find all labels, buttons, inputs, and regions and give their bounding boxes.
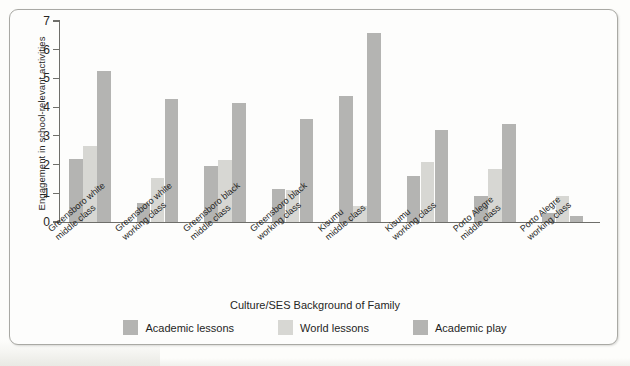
y-axis-tick xyxy=(53,107,60,108)
y-axis-tick-label: 2 xyxy=(34,158,50,172)
y-axis-tick xyxy=(53,135,60,136)
legend-label: World lessons xyxy=(300,322,369,334)
y-axis-tick xyxy=(53,20,60,21)
legend-item[interactable]: Academic play xyxy=(413,320,507,335)
bar-chart: Engagement in school-relevant activities… xyxy=(0,0,630,366)
legend-swatch-icon xyxy=(278,320,293,335)
y-axis-tick-label: 3 xyxy=(34,129,50,143)
legend-label: Academic play xyxy=(435,322,507,334)
y-axis-tick xyxy=(53,78,60,79)
x-axis-title: Culture/SES Background of Family xyxy=(0,299,630,311)
y-axis-tick xyxy=(53,164,60,165)
y-axis-tick-label: 4 xyxy=(34,100,50,114)
legend: Academic lessonsWorld lessonsAcademic pl… xyxy=(0,320,630,335)
legend-swatch-icon xyxy=(123,320,138,335)
y-axis-tick-label: 5 xyxy=(34,71,50,85)
legend-swatch-icon xyxy=(413,320,428,335)
legend-item[interactable]: World lessons xyxy=(278,320,369,335)
bar xyxy=(570,216,584,222)
legend-item[interactable]: Academic lessons xyxy=(123,320,234,335)
y-axis-tick-label: 6 xyxy=(34,43,50,57)
y-axis-tick xyxy=(53,193,60,194)
y-axis-tick-label: 7 xyxy=(34,14,50,28)
y-axis-tick xyxy=(53,49,60,50)
legend-label: Academic lessons xyxy=(145,322,234,334)
y-axis-tick-label: 1 xyxy=(34,186,50,200)
scanned-page: Engagement in school-relevant activities… xyxy=(0,0,630,366)
